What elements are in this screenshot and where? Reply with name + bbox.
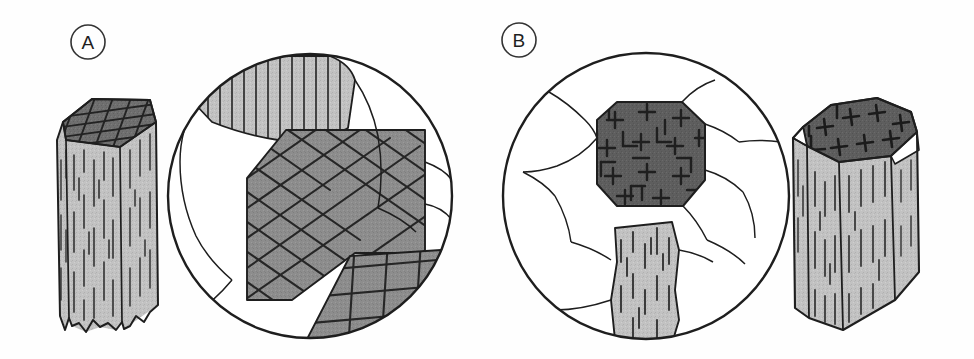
figure-root: A bbox=[0, 0, 974, 359]
pyroxene-crystal bbox=[793, 98, 919, 330]
panel-label-a: A bbox=[71, 25, 105, 59]
panel-label-a-text: A bbox=[81, 32, 94, 53]
thin-section-circle-a bbox=[168, 40, 460, 352]
amphibole-crystal-front-face bbox=[66, 140, 122, 332]
thin-section-circle-b bbox=[503, 53, 789, 340]
panel-a: A bbox=[0, 0, 487, 359]
panel-b-graphic: B bbox=[487, 0, 974, 359]
panel-label-b-text: B bbox=[512, 30, 525, 51]
panel-label-b: B bbox=[502, 23, 536, 57]
panel-a-graphic: A bbox=[0, 0, 487, 359]
grain-basal-center-b bbox=[597, 102, 705, 206]
amphibole-crystal bbox=[55, 95, 170, 332]
panel-b: B bbox=[487, 0, 974, 359]
pyroxene-crystal-front-face bbox=[807, 146, 843, 330]
grain-longitudinal-bottom-b bbox=[611, 222, 679, 340]
amphibole-crystal-right-face bbox=[120, 122, 158, 329]
